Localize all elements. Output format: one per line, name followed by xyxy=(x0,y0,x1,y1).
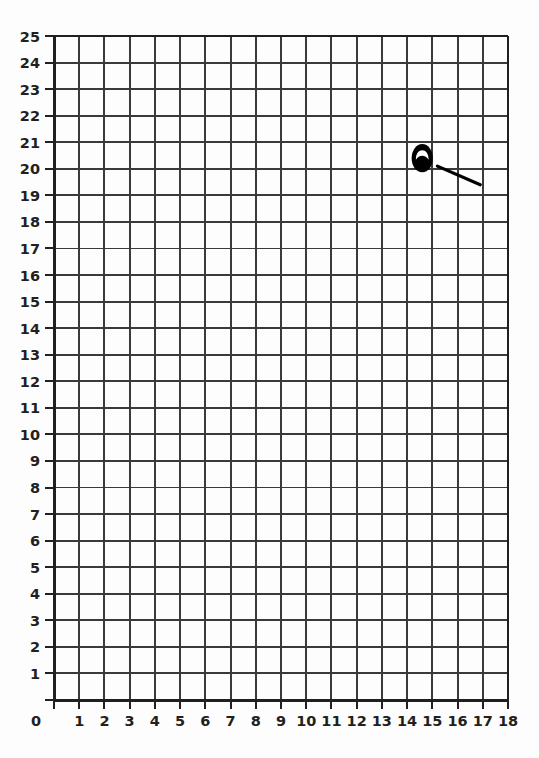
y-axis-label: 5 xyxy=(30,560,40,576)
x-axis-label: 3 xyxy=(125,713,135,729)
y-axis-label: 12 xyxy=(20,374,40,390)
x-axis-label: 15 xyxy=(422,713,442,729)
y-axis-label: 1 xyxy=(30,666,40,682)
coordinate-grid-figure: 123456789101112131415161718 123456789101… xyxy=(0,0,539,758)
y-axis-label: 2 xyxy=(30,639,40,655)
origin-label: 0 xyxy=(31,713,41,729)
y-axis-label: 24 xyxy=(20,55,40,71)
x-axis-label: 14 xyxy=(397,713,417,729)
y-axis-label: 20 xyxy=(20,161,40,177)
x-axis-label: 13 xyxy=(372,713,392,729)
x-axis-label: 10 xyxy=(296,713,316,729)
y-axis-label: 16 xyxy=(20,268,40,284)
y-axis-label: 10 xyxy=(20,427,40,443)
y-axis-label: 8 xyxy=(30,480,40,496)
x-axis-label: 12 xyxy=(347,713,367,729)
x-axis-label: 17 xyxy=(473,713,493,729)
x-axis-label: 4 xyxy=(150,713,160,729)
grid-svg: 123456789101112131415161718 123456789101… xyxy=(0,0,539,758)
y-axis-label: 19 xyxy=(20,188,40,204)
x-axis-label: 16 xyxy=(447,713,467,729)
x-axis-label: 9 xyxy=(276,713,286,729)
x-axis-label: 6 xyxy=(200,713,210,729)
ellipse-mark xyxy=(412,144,433,172)
origin-label-group: 0 xyxy=(31,713,41,729)
y-axis-label: 22 xyxy=(20,108,40,124)
x-axis-label: 7 xyxy=(226,713,236,729)
y-axis-label: 14 xyxy=(20,321,40,337)
y-axis-label: 25 xyxy=(20,29,40,45)
y-axis-label: 3 xyxy=(30,613,40,629)
y-axis-label: 4 xyxy=(30,586,40,602)
ellipse-body xyxy=(412,144,433,172)
y-axis-label: 6 xyxy=(30,533,40,549)
page-root: 123456789101112131415161718 123456789101… xyxy=(0,0,539,758)
x-axis-label: 1 xyxy=(74,713,84,729)
x-axis-label: 5 xyxy=(175,713,185,729)
x-axis-label: 8 xyxy=(251,713,261,729)
x-axis-label: 2 xyxy=(99,713,109,729)
y-axis-label: 23 xyxy=(20,82,40,98)
x-axis-label: 11 xyxy=(321,713,341,729)
y-axis-label: 9 xyxy=(30,453,40,469)
y-axis-label: 18 xyxy=(20,214,40,230)
y-axis-label: 21 xyxy=(20,135,40,151)
y-axis-label: 11 xyxy=(20,400,40,416)
x-axis-label: 18 xyxy=(498,713,518,729)
y-axis-label: 7 xyxy=(30,507,40,523)
y-axis-label: 15 xyxy=(20,294,40,310)
y-axis-label: 17 xyxy=(20,241,40,257)
y-axis-label: 13 xyxy=(20,347,40,363)
